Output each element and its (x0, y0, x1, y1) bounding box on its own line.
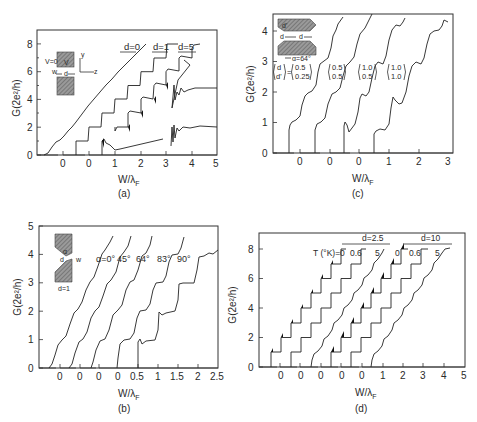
svg-text:1.0: 1.0 (391, 72, 401, 81)
svg-text:d=0: d=0 (124, 41, 140, 52)
svg-text:y: y (81, 51, 85, 59)
svg-text:2: 2 (262, 87, 268, 98)
panel-b-yticks: 0 1 2 3 4 5 (28, 221, 43, 374)
svg-text:3: 3 (445, 156, 451, 167)
svg-text:0: 0 (262, 148, 268, 159)
svg-text:5: 5 (28, 221, 34, 232)
panel-d: 0 2 4 6 8 G(2e²/h) 000 001 2345 W/λF (d) (227, 233, 467, 414)
svg-text:0: 0 (318, 370, 324, 381)
svg-text:6: 6 (248, 273, 254, 284)
panel-b-xticks: 000 00.51 1.522.5 (57, 364, 224, 382)
panel-c-baselines (273, 149, 453, 153)
svg-text:45°: 45° (117, 254, 131, 264)
svg-text:0: 0 (297, 156, 303, 167)
svg-text:64°: 64° (136, 254, 150, 264)
svg-text:0.5: 0.5 (332, 72, 342, 81)
svg-text:0: 0 (28, 363, 34, 374)
panel-a-curve-d1 (76, 44, 178, 155)
panel-b-ylabel: G(2e²/h) (12, 278, 23, 315)
svg-text:4: 4 (27, 94, 33, 105)
svg-text:3: 3 (163, 158, 169, 169)
panel-c: 0 1 2 3 4 G(2e²/h) 000 123 W/λF (c) d d'… (245, 14, 453, 199)
svg-text:T (°K)=0: T (°K)=0 (313, 248, 345, 258)
svg-text:1: 1 (155, 371, 161, 382)
panel-c-yticks: 0 1 2 3 4 (262, 26, 277, 159)
svg-text:0.5: 0.5 (362, 72, 372, 81)
svg-text:0: 0 (77, 371, 83, 382)
svg-text:2: 2 (28, 306, 34, 317)
panel-d-curve-d10-T0 (331, 249, 408, 367)
panel-a-baselines (37, 151, 217, 155)
panel-b-baselines (39, 364, 218, 368)
panel-d-annotations: d=2.5 d=10 T (°K)=0 0.6 5 0 0.6 5 (313, 233, 452, 258)
panel-c-inset-schematic: d' d d α=64° (278, 19, 316, 62)
svg-text:w: w (75, 256, 82, 263)
panel-b: 0 1 2 3 4 5 G(2e²/h) 000 00.51 1.522.5 W… (12, 221, 224, 414)
panel-d-ylabel: G(2e²/h) (227, 286, 238, 323)
svg-text:d=1: d=1 (153, 41, 169, 52)
panel-c-caption: (c) (352, 188, 364, 199)
svg-text:0: 0 (327, 156, 333, 167)
svg-text:0: 0 (115, 371, 121, 382)
svg-text:0: 0 (86, 158, 92, 169)
svg-text:0: 0 (395, 248, 400, 258)
svg-text:0: 0 (278, 370, 284, 381)
panel-c-curve-2 (315, 14, 372, 153)
svg-text:4: 4 (262, 26, 268, 37)
svg-text:1: 1 (28, 334, 34, 345)
svg-text:2: 2 (195, 371, 201, 382)
svg-text:5: 5 (213, 158, 219, 169)
svg-text:4: 4 (248, 303, 254, 314)
svg-text:1: 1 (380, 370, 386, 381)
panel-d-caption: (d) (355, 403, 367, 414)
svg-text:4: 4 (189, 158, 195, 169)
panel-b-curve-alpha90 (138, 250, 218, 368)
panel-a-ylabel: G(2e²/h) (11, 79, 22, 116)
svg-text:5: 5 (435, 248, 440, 258)
panel-a-inset-schematic: V=0 V w d yz (45, 51, 98, 95)
svg-text:V: V (64, 59, 69, 66)
panel-a-curve-d5-oscillation-lower (171, 125, 217, 146)
svg-text:z: z (94, 68, 98, 75)
svg-text:5: 5 (461, 370, 467, 381)
svg-text:90°: 90° (177, 254, 191, 264)
panel-a-yticks: 0 2 4 6 8 (27, 39, 41, 161)
panel-d-curve-d2.5-T0 (271, 249, 346, 367)
panel-c-annotations: d d' = 0.5 0.25 0.5 0.5 1.0 0.5 1.0 1.0 (274, 63, 406, 81)
svg-text:2: 2 (27, 122, 33, 133)
svg-text:0: 0 (359, 370, 365, 381)
svg-text:0: 0 (27, 150, 33, 161)
svg-text:d': d' (276, 72, 282, 81)
svg-text:d: d (280, 33, 284, 40)
svg-text:d: d (60, 256, 64, 263)
svg-text:0.6: 0.6 (350, 248, 362, 258)
panel-c-ylabel: G(2e²/h) (245, 65, 256, 102)
svg-text:0.25: 0.25 (295, 72, 310, 81)
svg-text:3: 3 (262, 56, 268, 67)
svg-text:2: 2 (400, 370, 406, 381)
panel-d-xticks: 000 001 2345 (278, 363, 467, 381)
svg-text:1: 1 (386, 156, 392, 167)
svg-text:8: 8 (27, 39, 33, 50)
svg-text:α=0°: α=0° (96, 254, 115, 264)
panel-d-curve-d10-T5 (371, 248, 450, 367)
svg-text:0.5: 0.5 (295, 63, 305, 72)
svg-text:0: 0 (96, 371, 102, 382)
svg-text:2: 2 (416, 156, 422, 167)
panel-a: 0 2 4 6 8 G(2e²/h) 00 12345 W/λF (a) (11, 30, 219, 199)
svg-text:V=0: V=0 (45, 58, 58, 65)
svg-text:83°: 83° (157, 254, 171, 264)
panel-b-inset-schematic: α d w d=1 (55, 234, 82, 292)
svg-text:1.0: 1.0 (391, 63, 401, 72)
panel-b-xlabel: W/λF (118, 388, 140, 401)
svg-text:4: 4 (28, 249, 34, 260)
svg-text:0: 0 (248, 362, 254, 373)
svg-text:α=64°: α=64° (292, 55, 311, 62)
panel-d-xlabel: W/λF (355, 387, 377, 400)
svg-text:0: 0 (298, 370, 304, 381)
svg-text:d': d' (282, 22, 287, 29)
svg-text:5: 5 (375, 248, 380, 258)
svg-text:3: 3 (420, 370, 426, 381)
svg-text:2: 2 (248, 332, 254, 343)
svg-text:1.0: 1.0 (362, 63, 372, 72)
